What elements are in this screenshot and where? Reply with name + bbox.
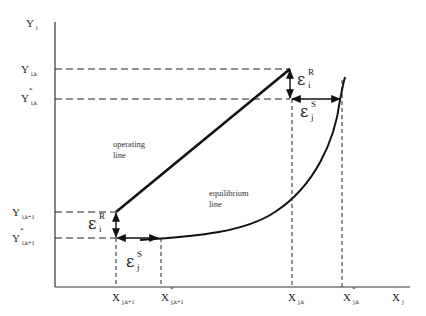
x-tick-main: X xyxy=(343,291,351,303)
epsilon-symbol: ε xyxy=(88,214,96,233)
y-tick-sub: i,k xyxy=(31,71,37,77)
equilibrium-line-label-1: equilibrium xyxy=(209,188,249,199)
x-tick-x-jk: Xj,k xyxy=(288,292,304,305)
eps-r-bottom-label: ε R i xyxy=(88,216,96,232)
subscript: i xyxy=(308,81,311,90)
epsilon-symbol: ε xyxy=(126,252,134,271)
x-axis-label-main: X xyxy=(392,291,400,303)
y-axis-label: Yi xyxy=(26,18,38,31)
epsilon-symbol: ε xyxy=(297,70,305,89)
superscript: R xyxy=(99,212,105,221)
y-tick-y-ik: Yi,k xyxy=(21,64,37,77)
operating-line-label-2: line xyxy=(113,150,145,161)
horizontal-guides xyxy=(55,69,290,238)
star-mark: * xyxy=(352,286,356,293)
y-tick-main: Y xyxy=(21,92,29,104)
operating-line-label: operating line xyxy=(113,139,145,161)
equilibrium-line-label-2: line xyxy=(209,199,249,210)
star-mark: * xyxy=(170,286,174,293)
eps-r-top-label: ε R i xyxy=(297,72,305,88)
x-tick-main: X xyxy=(161,291,169,303)
subscript: j xyxy=(137,263,140,272)
y-axis-label-main: Y xyxy=(26,17,34,29)
x-tick-x-jk1-star: X*j,k+1 xyxy=(161,292,184,305)
x-tick-sub: j,k xyxy=(298,299,304,305)
operating-equilibrium-diagram xyxy=(0,0,426,316)
star-mark: * xyxy=(20,227,24,234)
superscript: R xyxy=(308,68,314,77)
y-tick-main: Y xyxy=(12,232,20,244)
x-tick-main: X xyxy=(288,291,296,303)
y-tick-y-ik-star: Y*i,k xyxy=(21,93,37,106)
y-axis-label-sub: i xyxy=(36,25,38,31)
x-tick-x-jk-star: X*j,k xyxy=(343,292,359,305)
x-tick-sub: j,k+1 xyxy=(122,299,135,305)
subscript: j xyxy=(311,113,314,122)
y-tick-sub: i,k+1 xyxy=(22,214,35,220)
superscript: S xyxy=(137,250,142,259)
x-tick-main: X xyxy=(112,291,120,303)
y-tick-y-ik1: Yi,k+1 xyxy=(12,207,35,220)
x-tick-x-jk1: Xj,k+1 xyxy=(112,292,135,305)
x-tick-sub: j,k xyxy=(353,299,359,305)
operating-line-label-1: operating xyxy=(113,139,145,150)
x-tick-sub: j,k+1 xyxy=(171,299,184,305)
y-tick-sub: i,k+1 xyxy=(22,240,35,246)
y-tick-main: Y xyxy=(12,206,20,218)
y-tick-main: Y xyxy=(21,63,29,75)
y-tick-sub: i,k xyxy=(31,100,37,106)
eps-s-bottom-label: ε S j xyxy=(126,254,134,270)
equilibrium-line-label: equilibrium line xyxy=(209,188,249,210)
eps-s-top-label: ε S j xyxy=(300,104,308,120)
star-mark: * xyxy=(29,87,33,94)
x-axis-label: Xj xyxy=(392,292,404,305)
epsilon-symbol: ε xyxy=(300,102,308,121)
subscript: i xyxy=(99,225,102,234)
x-axis-label-sub: j xyxy=(402,299,404,305)
y-tick-y-ik1-star: Y*i,k+1 xyxy=(12,233,35,246)
superscript: S xyxy=(311,100,316,109)
